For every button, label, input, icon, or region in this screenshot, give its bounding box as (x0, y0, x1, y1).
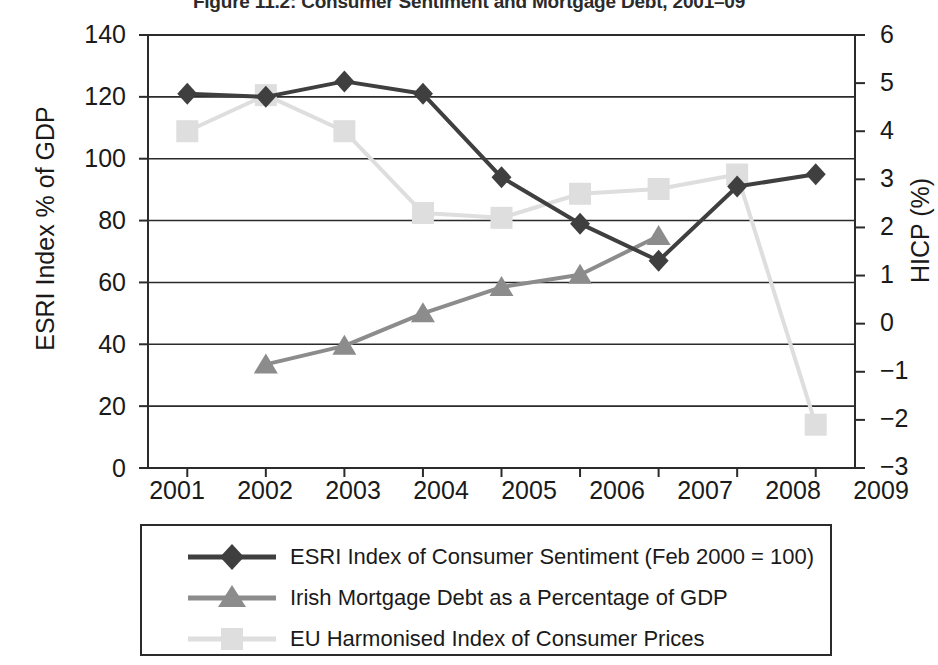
triangle-marker-icon (186, 583, 278, 613)
square-marker-icon (186, 624, 278, 654)
legend: ESRI Index of Consumer Sentiment (Feb 20… (140, 524, 832, 656)
legend-item[interactable]: EU Harmonised Index of Consumer Prices (186, 622, 705, 656)
diamond-marker-icon (186, 542, 278, 572)
legend-item-label: EU Harmonised Index of Consumer Prices (290, 626, 705, 652)
figure-container: Figure 11.2: Consumer Sentiment and Mort… (0, 0, 938, 665)
data-series-layer (176, 70, 826, 435)
legend-item[interactable]: ESRI Index of Consumer Sentiment (Feb 20… (186, 540, 814, 574)
legend-item-label: ESRI Index of Consumer Sentiment (Feb 20… (290, 544, 814, 570)
legend-item-label: Irish Mortgage Debt as a Percentage of G… (290, 585, 728, 611)
legend-item[interactable]: Irish Mortgage Debt as a Percentage of G… (186, 581, 728, 615)
